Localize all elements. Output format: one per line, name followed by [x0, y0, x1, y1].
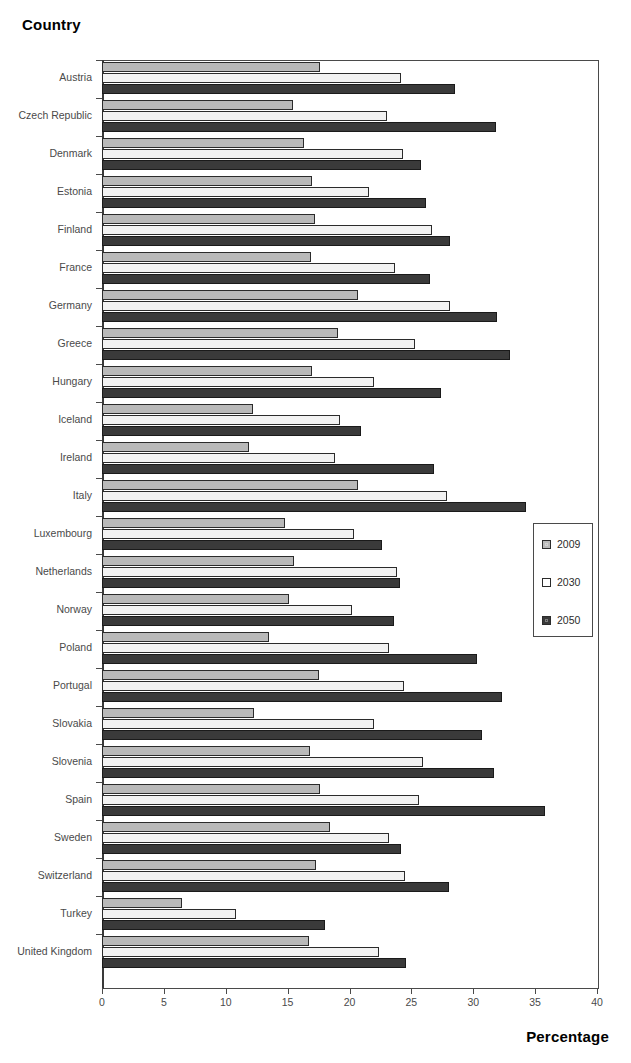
- x-axis-title: Percentage: [526, 1028, 609, 1045]
- bar-slovakia-2050: [102, 730, 482, 740]
- y-axis-tick: [96, 440, 102, 441]
- y-axis-tick: [96, 554, 102, 555]
- bar-greece-2030: [102, 339, 415, 349]
- bar-poland-2009: [102, 632, 269, 642]
- x-axis-tick: [350, 988, 351, 994]
- y-axis-label-greece: Greece: [0, 337, 92, 349]
- x-axis-tick-label: 25: [406, 996, 418, 1008]
- bar-portugal-2030: [102, 681, 404, 691]
- bar-iceland-2009: [102, 404, 253, 414]
- bar-spain-2050: [102, 806, 545, 816]
- y-axis-label-iceland: Iceland: [0, 413, 92, 425]
- legend-swatch-icon: [542, 578, 551, 587]
- bar-germany-2030: [102, 301, 450, 311]
- legend-swatch-icon: [542, 616, 551, 625]
- y-axis-label-norway: Norway: [0, 603, 92, 615]
- legend-item-2030: 2030: [542, 576, 580, 588]
- bar-united-kingdom-2050: [102, 958, 406, 968]
- bar-germany-2050: [102, 312, 497, 322]
- y-axis-label-netherlands: Netherlands: [0, 565, 92, 577]
- legend-label: 2050: [557, 614, 580, 626]
- bar-group: [0, 404, 631, 442]
- bar-group: [0, 784, 631, 822]
- bar-group: [0, 860, 631, 898]
- y-axis-tick: [96, 174, 102, 175]
- bar-group: [0, 62, 631, 100]
- y-axis-label-czech-republic: Czech Republic: [0, 109, 92, 121]
- y-axis-label-united-kingdom: United Kingdom: [0, 945, 92, 957]
- bar-iceland-2050: [102, 426, 361, 436]
- bar-finland-2050: [102, 236, 450, 246]
- y-axis-label-poland: Poland: [0, 641, 92, 653]
- x-axis-tick-label: 35: [529, 996, 541, 1008]
- bar-hungary-2009: [102, 366, 312, 376]
- y-axis-tick: [96, 706, 102, 707]
- y-axis-label-finland: Finland: [0, 223, 92, 235]
- y-axis-tick: [96, 250, 102, 251]
- bar-greece-2050: [102, 350, 510, 360]
- bar-group: [0, 746, 631, 784]
- x-axis-tick: [535, 988, 536, 994]
- bar-slovenia-2030: [102, 757, 423, 767]
- bar-united-kingdom-2030: [102, 947, 379, 957]
- x-axis-tick: [164, 988, 165, 994]
- legend-label: 2009: [557, 538, 580, 550]
- bar-switzerland-2050: [102, 882, 449, 892]
- x-axis-tick-label: 5: [161, 996, 167, 1008]
- x-axis-tick: [473, 988, 474, 994]
- bar-greece-2009: [102, 328, 338, 338]
- bar-sweden-2009: [102, 822, 330, 832]
- y-axis-label-hungary: Hungary: [0, 375, 92, 387]
- bar-estonia-2050: [102, 198, 426, 208]
- y-axis-label-slovenia: Slovenia: [0, 755, 92, 767]
- bar-group: [0, 100, 631, 138]
- y-axis-tick: [96, 364, 102, 365]
- y-axis-tick: [96, 630, 102, 631]
- bar-austria-2030: [102, 73, 401, 83]
- y-axis-tick: [96, 896, 102, 897]
- y-axis-label-slovakia: Slovakia: [0, 717, 92, 729]
- bar-denmark-2050: [102, 160, 421, 170]
- bar-turkey-2030: [102, 909, 236, 919]
- bar-luxembourg-2030: [102, 529, 354, 539]
- bar-poland-2030: [102, 643, 389, 653]
- y-axis-label-germany: Germany: [0, 299, 92, 311]
- y-axis-tick: [96, 668, 102, 669]
- legend: 200920302050: [533, 523, 593, 637]
- bar-group: [0, 708, 631, 746]
- bar-slovakia-2030: [102, 719, 374, 729]
- y-axis-tick: [96, 288, 102, 289]
- bar-group: [0, 898, 631, 936]
- y-axis-label-switzerland: Switzerland: [0, 869, 92, 881]
- bar-luxembourg-2050: [102, 540, 382, 550]
- y-axis-label-estonia: Estonia: [0, 185, 92, 197]
- bar-italy-2030: [102, 491, 447, 501]
- bar-sweden-2030: [102, 833, 389, 843]
- bar-austria-2009: [102, 62, 320, 72]
- x-axis-tick: [411, 988, 412, 994]
- bar-slovenia-2009: [102, 746, 310, 756]
- bar-group: [0, 670, 631, 708]
- bar-group: [0, 442, 631, 480]
- x-axis-tick: [226, 988, 227, 994]
- legend-item-2009: 2009: [542, 538, 580, 550]
- bar-norway-2009: [102, 594, 289, 604]
- bar-ireland-2009: [102, 442, 249, 452]
- bar-group: [0, 936, 631, 974]
- bar-luxembourg-2009: [102, 518, 285, 528]
- bar-spain-2009: [102, 784, 320, 794]
- x-axis-tick-label: 0: [99, 996, 105, 1008]
- y-axis-tick: [96, 478, 102, 479]
- bar-united-kingdom-2009: [102, 936, 309, 946]
- x-axis-tick: [597, 988, 598, 994]
- x-axis-tick-label: 40: [591, 996, 603, 1008]
- y-axis-tick: [96, 136, 102, 137]
- bar-group: [0, 252, 631, 290]
- legend-swatch-icon: [542, 540, 551, 549]
- bar-czech-republic-2009: [102, 100, 293, 110]
- bar-france-2050: [102, 274, 430, 284]
- y-axis-label-turkey: Turkey: [0, 907, 92, 919]
- y-axis-title: Country: [22, 16, 81, 33]
- bar-switzerland-2009: [102, 860, 316, 870]
- y-axis-tick: [96, 60, 102, 61]
